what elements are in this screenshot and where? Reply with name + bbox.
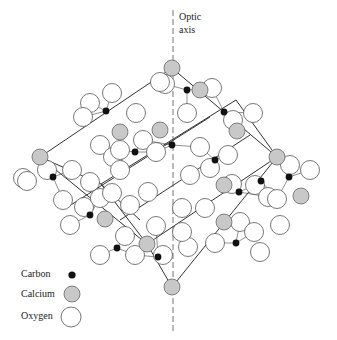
oxygen-atom-icon: [127, 104, 146, 123]
calcium-atom-icon: [97, 211, 113, 227]
oxygen-atom-icon: [61, 216, 80, 235]
optic-axis-label-line2: axis: [179, 23, 201, 36]
cell-edge: [66, 117, 210, 208]
oxygen-atom-icon: [18, 172, 37, 191]
oxygen-atom-icon: [196, 199, 215, 218]
oxygen-atom-icon: [178, 104, 197, 123]
oxygen-atom-icon: [111, 141, 130, 160]
oxygen-atom-icon: [206, 234, 225, 253]
calcium-atom-icon: [164, 60, 180, 76]
oxygen-atom-icon: [91, 246, 110, 265]
legend-symbols: [61, 271, 81, 327]
oxygen-atom-icon: [81, 173, 100, 192]
carbon-atom-icon: [258, 178, 265, 185]
legend-carbon-icon: [68, 271, 75, 278]
oxygen-atom-icon: [173, 199, 192, 218]
oxygen-atom-icon: [147, 217, 166, 236]
carbon-atom-icon: [114, 245, 121, 252]
oxygen-atom-icon: [63, 161, 82, 180]
legend-oxygen-label: Oxygen: [21, 310, 53, 321]
calcium-atom-icon: [192, 82, 208, 98]
oxygen-atom-icon: [54, 191, 73, 210]
oxygen-atom-icon: [268, 190, 287, 209]
oxygen-atom-icon: [116, 227, 135, 246]
oxygen-atoms: [14, 73, 320, 265]
calcium-atom-icon: [269, 149, 285, 165]
carbon-atom-icon: [236, 189, 243, 196]
carbon-atom-icon: [50, 174, 57, 181]
oxygen-atom-icon: [74, 108, 93, 127]
carbon-atom-icon: [103, 108, 110, 115]
oxygen-atom-icon: [147, 143, 166, 162]
legend-calcium-label: Calcium: [21, 288, 55, 299]
calcium-atom-icon: [32, 149, 48, 165]
carbon-atom-icon: [233, 240, 240, 247]
calcium-atom-icon: [112, 124, 128, 140]
carbon-atom-icon: [212, 157, 219, 164]
calcium-atom-icon: [216, 177, 232, 193]
oxygen-atom-icon: [191, 138, 210, 157]
oxygen-atom-icon: [139, 183, 158, 202]
oxygen-atom-icon: [111, 161, 130, 180]
carbon-atom-icon: [169, 142, 176, 149]
oxygen-atom-icon: [151, 73, 170, 92]
oxygen-atom-icon: [301, 161, 320, 180]
oxygen-atom-icon: [181, 166, 200, 185]
oxygen-atom-icon: [245, 223, 264, 242]
legend-calcium-icon: [64, 286, 80, 302]
calcium-atom-icon: [216, 214, 232, 230]
legend-oxygen-icon: [61, 307, 81, 327]
calcium-atom-icon: [293, 188, 309, 204]
optic-axis-label-line1: Optic: [179, 10, 201, 23]
carbon-atom-icon: [132, 149, 139, 156]
carbon-atom-icon: [87, 212, 94, 219]
calcium-atom-icon: [164, 279, 180, 295]
oxygen-atom-icon: [103, 184, 122, 203]
carbon-atom-icon: [184, 87, 191, 94]
carbon-atom-icon: [221, 109, 228, 116]
oxygen-atom-icon: [219, 146, 238, 165]
calcium-atom-icon: [139, 236, 155, 252]
oxygen-atom-icon: [251, 243, 270, 262]
legend-carbon-label: Carbon: [21, 268, 50, 279]
carbon-atom-icon: [155, 254, 162, 261]
oxygen-atom-icon: [173, 223, 192, 242]
optic-axis-label: Optic axis: [179, 10, 201, 36]
oxygen-atom-icon: [271, 216, 290, 235]
oxygen-atom-icon: [244, 104, 263, 123]
carbon-atom-icon: [286, 174, 293, 181]
oxygen-atom-icon: [103, 84, 122, 103]
oxygen-atom-icon: [121, 196, 140, 215]
calcium-atom-icon: [152, 122, 168, 138]
calcium-atom-icon: [229, 123, 245, 139]
